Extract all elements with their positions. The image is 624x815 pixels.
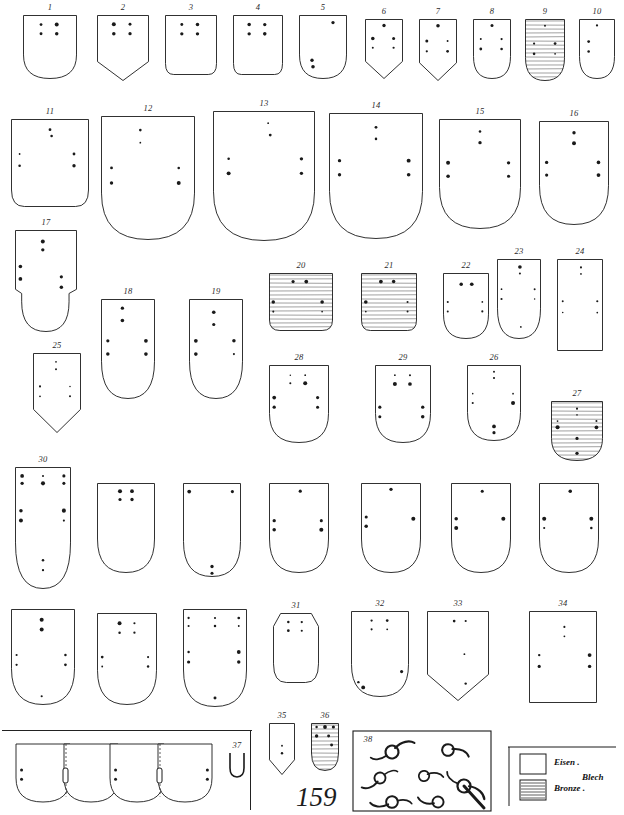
rivet-hole: [40, 23, 43, 26]
rivet-hole: [101, 656, 104, 659]
rivet-hole: [316, 396, 319, 399]
figure-10: [578, 18, 616, 80]
rivet-hole: [40, 618, 44, 622]
rivet-hole: [492, 425, 496, 429]
figure-number-14: 14: [328, 100, 424, 110]
figure-33: [426, 610, 490, 702]
figure-number-20: 20: [268, 260, 334, 270]
rivet-hole: [112, 22, 116, 26]
rivet-hole: [72, 164, 75, 167]
rivet-hole: [304, 374, 306, 376]
rivet-hole: [212, 310, 216, 314]
rivet-hole: [321, 311, 323, 313]
figure-8: [472, 18, 512, 80]
rivet-hole: [587, 50, 590, 53]
rivet-hole: [40, 628, 44, 632]
rivet-hole: [118, 498, 121, 501]
rivet-hole: [320, 519, 323, 522]
rivet-hole: [319, 528, 323, 532]
rivet-hole: [533, 42, 535, 44]
rivet-hole: [121, 319, 125, 323]
figure-18: [100, 298, 156, 400]
rivet-hole: [357, 681, 359, 683]
rivet-hole: [69, 395, 71, 397]
rivet-hole: [263, 32, 267, 36]
rivet-hole: [562, 312, 564, 314]
rivet-hole: [595, 420, 597, 422]
rivet-hole: [19, 509, 23, 513]
rivet-hole: [480, 38, 482, 40]
rivet-hole: [133, 632, 135, 634]
figure-number-33: 33: [426, 598, 490, 608]
rivet-hole: [534, 298, 536, 300]
figure-outline: [444, 274, 489, 339]
rivet-hole: [300, 172, 303, 175]
rivet-hole: [62, 509, 66, 513]
rivet-hole: [454, 526, 458, 530]
figure-number-12: 12: [100, 103, 196, 113]
figure-IX: [182, 608, 248, 708]
rivet-hole: [587, 40, 590, 43]
figure-IV: [360, 482, 422, 574]
rivet-hole: [62, 474, 65, 477]
folded-fitting-A: [14, 742, 122, 804]
rivet-hole: [63, 519, 65, 521]
figure-number-32: 32: [350, 598, 410, 608]
rivet-hole: [196, 32, 199, 35]
rivet-hole: [233, 353, 235, 355]
rivet-hole: [568, 489, 572, 493]
rivet-hole: [447, 40, 449, 42]
figure-number-15: 15: [438, 106, 522, 116]
rivet-hole: [481, 310, 483, 312]
figure-21: [360, 272, 418, 332]
rivet-hole: [130, 498, 133, 501]
figure-number-17: 17: [14, 217, 78, 227]
figure-34: [528, 610, 598, 704]
rivet-hole: [41, 695, 43, 697]
rivet-hole: [231, 490, 234, 493]
rivet-hole: [55, 368, 57, 370]
rivet-hole: [320, 300, 324, 304]
rivet-hole: [554, 53, 556, 55]
figure-number-30: 30: [14, 454, 72, 464]
rivet-hole: [331, 21, 334, 24]
rivet-hole: [512, 393, 514, 395]
figure-outline: [270, 366, 329, 443]
rivet-hole: [303, 381, 307, 385]
figure-number-2: 2: [96, 2, 150, 12]
figure-outline: [540, 484, 599, 573]
u-clip: [228, 752, 246, 778]
rivet-hole: [281, 745, 283, 747]
legend-label-eisen: Eisen .: [554, 757, 580, 767]
rivet-hole: [364, 300, 368, 304]
figure-number-37: 37: [226, 740, 248, 750]
figure-number-7: 7: [418, 6, 458, 16]
rivet-hole: [597, 161, 601, 165]
figure-outline: [166, 16, 217, 75]
rivet-hole: [392, 37, 395, 40]
u-clip-outline: [230, 753, 244, 777]
rivet-hole: [187, 490, 191, 494]
rivet-hole: [472, 402, 474, 404]
rivet-hole: [446, 174, 450, 178]
rivet-hole: [501, 517, 505, 521]
rivet-hole: [237, 650, 241, 654]
rivet-hole: [500, 38, 502, 40]
rivet-hole: [572, 141, 576, 145]
rivet-hole: [64, 654, 67, 657]
rivet-hole: [177, 167, 180, 170]
figure-outline: [24, 16, 77, 79]
rivet-hole: [520, 326, 522, 328]
rivet-hole: [62, 482, 65, 485]
rivet-hole: [304, 280, 308, 284]
rivet-hole: [407, 159, 411, 163]
rivet-hole: [273, 519, 276, 522]
rivet-hole: [139, 129, 142, 132]
rivet-hole: [382, 24, 385, 27]
figure-number-3: 3: [164, 2, 218, 12]
figure-number-31: 31: [272, 600, 320, 610]
rivet-hole: [114, 778, 117, 781]
rivet-hole: [493, 371, 495, 373]
figure-number-27: 27: [550, 388, 604, 398]
figure-number-4: 4: [232, 2, 284, 12]
